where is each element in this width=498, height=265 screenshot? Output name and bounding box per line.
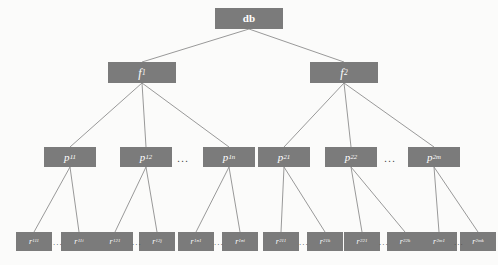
edge-p11-to-r111 [34,167,70,232]
edge-db-to-f2 [249,29,344,62]
ellipsis-ell-r2: ... [132,238,142,247]
node-subscript: 2m1 [436,239,445,244]
node-p12: p12 [120,147,172,167]
ellipsis-ell-r1: ... [53,238,63,247]
edge-p22-to-r22k [351,167,405,232]
node-subscript: 21k [323,239,330,244]
node-subscript: 22k [403,239,410,244]
edge-f1-to-p11 [70,83,142,147]
node-subscript: 1n1 [194,239,201,244]
ellipsis-ell-r5: ... [379,238,389,247]
ellipsis-ell-p1: ... [177,152,189,164]
edge-p21-to-r211 [281,167,284,232]
edge-f2-to-p2m [344,83,434,147]
node-p22: p22 [325,147,377,167]
ellipsis-ell-r4: ... [299,238,309,247]
edge-p12-to-r121 [115,167,146,232]
node-p21: p21 [258,147,310,167]
node-p1n: p1n [203,147,255,167]
node-r2mk: r2mk [460,232,496,251]
edge-p11-to-r11i [70,167,79,232]
node-db: db [215,8,283,29]
node-p11: p11 [44,147,96,167]
edge-p2m-to-r2mk [434,167,478,232]
node-r2m1: r2m1 [421,232,457,251]
edge-f1-to-p1n [142,83,229,147]
node-subscript: 111 [32,239,39,244]
node-r11i: r11i [61,232,97,251]
node-r1ni: r1ni [222,232,258,251]
node-p2m: p2m [408,147,460,167]
node-r22k: r22k [387,232,423,251]
edge-p1n-to-r1n1 [196,167,229,232]
node-r111: r111 [16,232,52,251]
node-subscript: 22 [350,154,357,161]
node-subscript: 12 [145,154,152,161]
node-subscript: 1 [142,69,146,76]
edge-p22-to-r221 [351,167,362,232]
node-subscript: 11 [70,154,76,161]
edge-p1n-to-r1ni [229,167,240,232]
node-r211: r211 [263,232,299,251]
ellipsis-ell-p2: ... [384,152,396,164]
node-r21k: r21k [307,232,343,251]
node-subscript: 2 [344,69,348,76]
edge-p21-to-r21k [284,167,325,232]
node-subscript: 11i [78,239,84,244]
edge-db-to-f1 [142,29,249,62]
node-subscript: 2m [433,154,441,161]
node-r12j: r12j [139,232,175,251]
node-subscript: 121 [113,239,120,244]
node-subscript: 211 [279,239,286,244]
node-subscript: 2mk [476,239,484,244]
ellipsis-ell-r3: ... [214,238,224,247]
node-subscript: 221 [360,239,367,244]
edge-layer [0,0,498,265]
edge-p2m-to-r2m1 [434,167,439,232]
node-f1: f1 [108,62,176,83]
edge-p12-to-r12j [146,167,157,232]
node-r221: r221 [344,232,380,251]
node-f2: f2 [310,62,378,83]
node-subscript: 1ni [238,239,244,244]
ellipsis-ell-r6: ... [454,238,464,247]
edge-f1-to-p12 [142,83,146,147]
edge-f2-to-p22 [344,83,351,147]
node-subscript: 1n [228,154,235,161]
node-subscript: 12j [155,239,161,244]
node-r121: r121 [97,232,133,251]
node-label: db [243,13,256,24]
node-subscript: 21 [283,154,290,161]
diagram-canvas: dbf1f2p11p12p1np21p22p2m......r111r11ir1… [0,0,498,265]
edge-f2-to-p21 [284,83,344,147]
node-r1n1: r1n1 [178,232,214,251]
